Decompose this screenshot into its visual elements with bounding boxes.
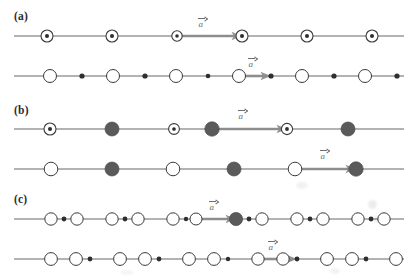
site-open-circle	[44, 162, 58, 176]
vector-letter: a	[209, 203, 214, 212]
site-filled-circle	[341, 122, 355, 136]
site-open-circle	[352, 213, 364, 225]
site-filled-circle	[229, 212, 242, 225]
site-small-dot	[369, 217, 374, 222]
site-ring-center-dot	[285, 127, 289, 131]
site-open-circle	[44, 70, 57, 83]
vector-arrow-overbar-icon	[198, 16, 203, 20]
site-open-circle	[277, 253, 289, 265]
site-open-circle	[139, 253, 152, 266]
site-ring-center-dot	[305, 34, 309, 38]
site-small-dot	[123, 217, 128, 222]
site-filled-circle	[227, 162, 241, 176]
site-open-circle	[296, 70, 309, 83]
site-open-circle	[346, 253, 359, 266]
translation-vector-arrow	[295, 165, 356, 173]
lattice-row-c1	[14, 212, 404, 225]
site-small-dot	[394, 73, 399, 78]
site-open-circle	[166, 162, 180, 176]
vector-label-a: a	[268, 239, 273, 252]
panel-label-a: (a)	[14, 10, 28, 22]
lattice-row-b1	[14, 122, 404, 136]
vector-arrow-overbar-icon	[268, 239, 273, 243]
site-open-circle	[107, 70, 120, 83]
site-small-dot	[79, 73, 84, 78]
site-small-dot	[295, 257, 300, 262]
panel-b	[14, 122, 404, 176]
vector-letter: a	[238, 112, 243, 121]
site-open-circle	[233, 70, 246, 83]
vector-arrow-overbar-icon	[320, 148, 325, 152]
lattice-row-a2	[14, 70, 404, 83]
site-open-circle	[132, 213, 144, 225]
lattice-row-a1	[14, 30, 404, 42]
site-small-dot	[247, 217, 252, 222]
site-open-circle	[114, 253, 127, 266]
site-filled-circle	[105, 122, 119, 136]
site-open-circle	[378, 213, 390, 225]
site-ring-center-dot	[175, 34, 179, 38]
site-open-circle	[45, 253, 58, 266]
site-small-dot	[157, 257, 162, 262]
panel-label-c: (c)	[14, 193, 27, 205]
vector-arrow-overbar-icon	[238, 108, 243, 112]
vector-label-a: a	[248, 56, 253, 69]
site-open-circle	[291, 213, 303, 225]
panel-c	[14, 212, 404, 265]
site-open-circle	[256, 213, 268, 225]
site-open-circle	[71, 213, 83, 225]
lattice-row-c2	[14, 253, 404, 266]
site-small-dot	[88, 257, 93, 262]
translation-vector-arrow	[177, 32, 242, 40]
site-small-dot	[226, 257, 230, 261]
site-open-circle	[45, 213, 57, 225]
site-open-circle	[70, 253, 83, 266]
vector-letter: a	[320, 152, 325, 161]
site-open-circle	[167, 213, 179, 225]
site-open-circle	[183, 253, 196, 266]
site-small-dot	[308, 217, 313, 222]
site-open-circle	[208, 253, 221, 266]
vector-letter: a	[268, 243, 273, 252]
site-ring-center-dot	[370, 34, 374, 38]
lattice-figure: (a)aa(b)aa(c)aa	[0, 0, 415, 277]
site-filled-circle	[349, 162, 363, 176]
site-filled-circle	[105, 162, 119, 176]
site-open-circle	[106, 213, 118, 225]
site-small-dot	[142, 73, 147, 78]
site-small-dot	[268, 73, 273, 78]
site-ring-center-dot	[240, 34, 244, 38]
site-filled-circle	[205, 122, 219, 136]
site-small-dot	[364, 257, 369, 262]
panel-a	[14, 30, 404, 83]
site-small-dot	[184, 217, 188, 221]
site-open-circle	[252, 253, 264, 265]
lattice-row-b2	[14, 162, 404, 176]
site-open-circle	[390, 253, 403, 266]
translation-vector-arrow	[212, 125, 287, 133]
site-ring-center-dot	[110, 34, 114, 38]
vector-letter: a	[198, 20, 203, 29]
site-open-circle	[321, 253, 334, 266]
site-open-circle	[170, 70, 183, 83]
vector-label-a: a	[209, 199, 214, 212]
vector-label-a: a	[198, 16, 203, 29]
site-small-dot	[206, 74, 211, 79]
vector-letter: a	[248, 60, 253, 69]
site-ring-center-dot	[172, 127, 176, 131]
site-open-circle	[190, 213, 202, 225]
lattice-canvas	[0, 0, 415, 277]
vector-label-a: a	[320, 148, 325, 161]
vector-label-a: a	[238, 108, 243, 121]
site-ring-center-dot	[48, 127, 52, 131]
panel-label-b: (b)	[14, 104, 29, 116]
site-small-dot	[62, 217, 67, 222]
site-open-circle	[359, 70, 372, 83]
site-small-dot	[331, 73, 336, 78]
vector-arrow-overbar-icon	[209, 199, 214, 203]
site-ring-center-dot	[45, 34, 49, 38]
site-open-circle	[317, 213, 329, 225]
vector-arrow-overbar-icon	[248, 56, 253, 60]
site-open-circle	[288, 162, 302, 176]
